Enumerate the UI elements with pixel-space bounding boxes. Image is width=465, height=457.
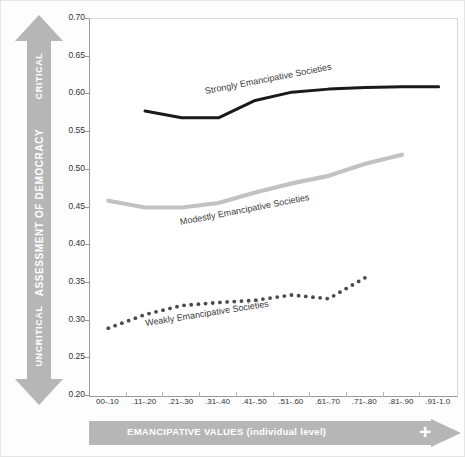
x-axis-tick-labels: 00-.10.11-.20.21-.30.31-.40.41-.50.51-.6… [89, 397, 456, 413]
y-tick-label: 0.65 [51, 50, 85, 60]
figure-canvas: CRITICAL ASSESSMENT OF DEMOCRACY UNCRITI… [0, 0, 465, 457]
x-tick-mark [346, 392, 347, 397]
y-tick-mark [85, 320, 89, 321]
series-line-1 [108, 155, 402, 208]
x-tick-mark [419, 392, 420, 397]
y-tick-label: 0.60 [51, 87, 85, 97]
horizontal-axis-arrow: EMANCIPATIVE VALUES (individual level) + [89, 419, 461, 447]
x-tick-mark [236, 392, 237, 397]
x-tick-label: .81-.90 [388, 397, 413, 406]
vertical-axis-bottom-label: UNCRITICAL [34, 306, 44, 367]
y-tick-label: 0.50 [51, 163, 85, 173]
x-tick-label: .61-.70 [315, 397, 340, 406]
x-tick-label: .41-.50 [242, 397, 267, 406]
x-tick-label: .51-.60 [278, 397, 303, 406]
arrow-right-head-icon [431, 419, 461, 447]
y-tick-mark [85, 18, 89, 19]
x-tick-label: .71-.80 [352, 397, 377, 406]
y-tick-mark [85, 244, 89, 245]
x-tick-label: .21-.30 [168, 397, 193, 406]
y-tick-label: 0.30 [51, 314, 85, 324]
x-tick-mark [309, 392, 310, 397]
y-tick-mark [85, 207, 89, 208]
y-tick-mark [85, 395, 89, 396]
y-tick-mark [85, 93, 89, 94]
x-tick-label: .31-.40 [205, 397, 230, 406]
x-tick-mark [126, 392, 127, 397]
y-tick-label: 0.20 [51, 389, 85, 399]
y-tick-mark [85, 282, 89, 283]
y-tick-mark [85, 357, 89, 358]
horizontal-axis-title: EMANCIPATIVE VALUES (individual level) [127, 426, 326, 437]
x-tick-label: 00-.10 [96, 397, 119, 406]
vertical-axis-title: ASSESSMENT OF DEMOCRACY [34, 129, 45, 297]
x-tick-mark [383, 392, 384, 397]
x-tick-mark [162, 392, 163, 397]
y-tick-mark [85, 56, 89, 57]
y-tick-mark [85, 131, 89, 132]
plus-sign-icon: + [419, 420, 431, 444]
y-tick-label: 0.55 [51, 125, 85, 135]
x-tick-label: .11-.20 [132, 397, 156, 406]
vertical-axis-top-label: CRITICAL [34, 53, 44, 100]
series-line-0 [145, 87, 439, 118]
y-axis-tick-labels: 0.200.250.300.350.400.450.500.550.600.65… [45, 1, 85, 457]
y-tick-label: 0.70 [51, 12, 85, 22]
y-tick-label: 0.35 [51, 276, 85, 286]
x-tick-label: .91-1.0 [425, 397, 450, 406]
x-tick-mark [273, 392, 274, 397]
y-tick-label: 0.40 [51, 238, 85, 248]
y-tick-mark [85, 169, 89, 170]
y-tick-label: 0.25 [51, 351, 85, 361]
x-tick-mark [199, 392, 200, 397]
y-tick-label: 0.45 [51, 201, 85, 211]
